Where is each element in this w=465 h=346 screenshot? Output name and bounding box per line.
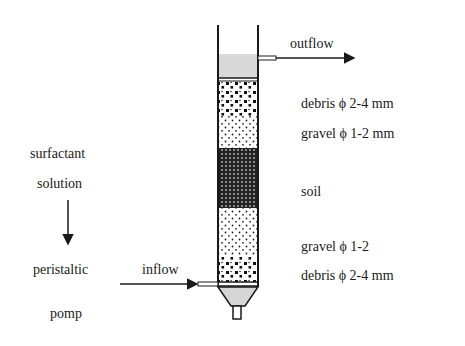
- column-diagram: [0, 0, 465, 346]
- layer-soil: [219, 148, 257, 208]
- layer-gravel-bottom: [219, 208, 257, 256]
- layer-debris-top: [219, 82, 257, 116]
- outflow-tube: [258, 56, 276, 60]
- layer-label-debris-top: debris ϕ 2-4 mm: [301, 96, 394, 112]
- inflow-tube: [198, 282, 218, 286]
- layer-debris-bottom: [219, 256, 257, 282]
- layer-gravel-top: [219, 116, 257, 148]
- layer-label-gravel-top: gravel ϕ 1-2 mm: [301, 126, 394, 142]
- solution-label: solution: [37, 176, 82, 192]
- inflow-label: inflow: [142, 262, 179, 278]
- outlet-tube: [233, 306, 241, 319]
- liquid-layer: [219, 54, 257, 78]
- layer-label-debris-bottom: debris ϕ 2-4 mm: [301, 268, 394, 284]
- funnel: [218, 287, 258, 306]
- peristaltic-label: peristaltic: [33, 262, 88, 278]
- layer-label-soil: soil: [301, 184, 321, 200]
- layer-label-gravel-bottom: gravel ϕ 1-2: [301, 239, 369, 255]
- outflow-label: outflow: [290, 36, 334, 52]
- pomp-label: pomp: [50, 306, 82, 322]
- surfactant-label: surfactant: [30, 146, 85, 162]
